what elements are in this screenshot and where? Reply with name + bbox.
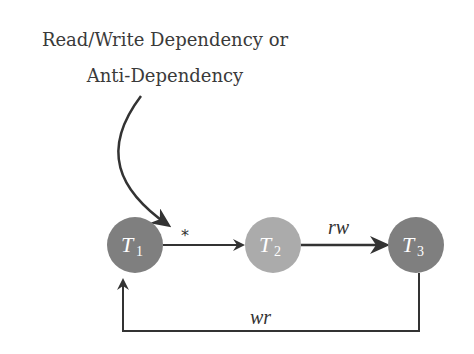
node-t2-sub: 2 bbox=[274, 244, 281, 259]
node-t2-letter: T bbox=[259, 232, 273, 257]
edge-label-t1-t2: * bbox=[181, 226, 189, 245]
node-t3-letter: T bbox=[402, 232, 416, 257]
node-t3: T 3 bbox=[388, 217, 444, 273]
annotation-arrow bbox=[118, 96, 168, 225]
edge-label-t3-t1: wr bbox=[250, 306, 271, 328]
dependency-graph: * rw wr T 1 T 2 T 3 bbox=[0, 0, 474, 354]
node-t2: T 2 bbox=[245, 217, 301, 273]
edge-label-t2-t3: rw bbox=[328, 216, 350, 238]
node-t1-sub: 1 bbox=[136, 244, 143, 259]
node-t1: T 1 bbox=[107, 217, 163, 273]
node-t1-letter: T bbox=[121, 232, 135, 257]
node-t3-sub: 3 bbox=[417, 244, 424, 259]
